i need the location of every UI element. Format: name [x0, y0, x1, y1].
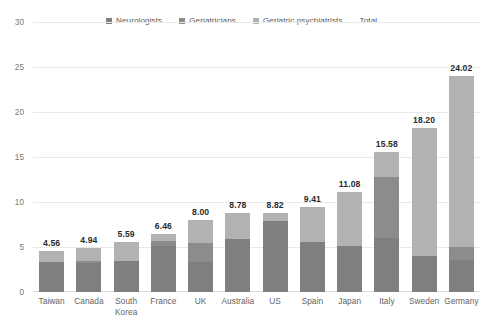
y-axis-tick-label: 20	[0, 107, 24, 117]
bar-total-label: 6.46	[155, 221, 172, 231]
stacked-bar[interactable]: 8.78	[225, 213, 250, 292]
bar-segment-geriatric-psychiatrists[interactable]	[39, 251, 64, 262]
bar-segment-geriatric-psychiatrists[interactable]	[151, 234, 176, 241]
y-axis-tick-label: 30	[0, 17, 24, 27]
x-axis-category-label: UK	[182, 296, 219, 317]
y-axis-tick-label: 0	[0, 287, 24, 297]
bar-total-label: 24.02	[450, 63, 472, 73]
stacked-bar[interactable]: 4.56	[39, 251, 64, 292]
bar-segment-neurologists[interactable]	[412, 256, 437, 292]
bar-segment-geriatric-psychiatrists[interactable]	[76, 248, 101, 261]
bar-segment-neurologists[interactable]	[337, 246, 362, 292]
bar-segment-neurologists[interactable]	[374, 238, 399, 292]
bar-segment-neurologists[interactable]	[300, 242, 325, 292]
bar-total-label: 18.20	[413, 115, 435, 125]
x-axis-category-label: Taiwan	[33, 296, 70, 317]
x-axis-category-label: France	[145, 296, 182, 317]
bar-total-label: 9.41	[304, 194, 321, 204]
bar-segment-neurologists[interactable]	[76, 263, 101, 292]
bar-segment-neurologists[interactable]	[39, 262, 64, 292]
bar-segment-geriatric-psychiatrists[interactable]	[225, 213, 250, 239]
bar-total-label: 15.58	[376, 139, 398, 149]
y-axis-labels: 051015202530	[0, 22, 27, 292]
x-axis-category-label: US	[257, 296, 294, 317]
x-axis-category-label: Spain	[294, 296, 331, 317]
x-axis-category-label: Germany	[443, 296, 480, 317]
bar-slot: 15.58	[368, 22, 405, 292]
bar-total-label: 8.82	[267, 200, 284, 210]
bar-segment-geriatric-psychiatrists[interactable]	[114, 242, 139, 262]
bar-segment-neurologists[interactable]	[225, 239, 250, 292]
x-axis-category-label: Australia	[219, 296, 256, 317]
stacked-bar[interactable]: 4.94	[76, 248, 101, 292]
bar-slot: 6.46	[145, 22, 182, 292]
x-axis-category-label: Japan	[331, 296, 368, 317]
stacked-bar[interactable]: 11.08	[337, 192, 362, 292]
x-axis-category-label: Italy	[368, 296, 405, 317]
bar-slot: 24.02	[443, 22, 480, 292]
y-axis-tick-label: 5	[0, 242, 24, 252]
stacked-bar[interactable]: 9.41	[300, 207, 325, 292]
bar-segment-geriatric-psychiatrists[interactable]	[337, 192, 362, 245]
bar-slot: 8.82	[257, 22, 294, 292]
stacked-bar[interactable]: 8.82	[263, 213, 288, 292]
bar-segment-geriatricians[interactable]	[374, 177, 399, 238]
bar-slot: 5.59	[108, 22, 145, 292]
bar-segment-neurologists[interactable]	[449, 260, 474, 292]
x-axis-category-label: Sweden	[406, 296, 443, 317]
stacked-bar[interactable]: 5.59	[114, 242, 139, 292]
stacked-bar[interactable]: 6.46	[151, 234, 176, 292]
x-axis-category-label: Canada	[70, 296, 107, 317]
bar-total-label: 11.08	[339, 179, 361, 189]
bar-segment-geriatricians[interactable]	[449, 247, 474, 261]
y-axis-tick-label: 10	[0, 197, 24, 207]
stacked-bar[interactable]: 18.20	[412, 128, 437, 292]
bar-segment-neurologists[interactable]	[114, 261, 139, 292]
bar-segment-geriatric-psychiatrists[interactable]	[412, 128, 437, 255]
bar-series-group: 4.564.945.596.468.008.788.829.4111.0815.…	[33, 22, 480, 292]
bar-slot: 4.94	[70, 22, 107, 292]
bar-total-label: 8.78	[229, 200, 246, 210]
bar-segment-neurologists[interactable]	[188, 262, 213, 292]
bar-segment-geriatric-psychiatrists[interactable]	[374, 152, 399, 177]
bar-total-label: 8.00	[192, 207, 209, 217]
stacked-bar[interactable]: 8.00	[188, 220, 213, 292]
bar-total-label: 5.59	[118, 229, 135, 239]
plot-area: 4.564.945.596.468.008.788.829.4111.0815.…	[33, 22, 480, 292]
bar-segment-geriatricians[interactable]	[188, 243, 213, 261]
bar-slot: 4.56	[33, 22, 70, 292]
bar-segment-geriatric-psychiatrists[interactable]	[263, 213, 288, 221]
bar-segment-neurologists[interactable]	[151, 246, 176, 292]
y-axis-tick-label: 15	[0, 152, 24, 162]
bar-segment-geriatric-psychiatrists[interactable]	[300, 207, 325, 242]
bar-slot: 18.20	[406, 22, 443, 292]
bar-slot: 8.78	[219, 22, 256, 292]
bar-slot: 9.41	[294, 22, 331, 292]
bar-segment-neurologists[interactable]	[263, 221, 288, 292]
x-axis-category-label: South Korea	[108, 296, 145, 317]
bar-segment-geriatric-psychiatrists[interactable]	[188, 220, 213, 243]
bar-slot: 11.08	[331, 22, 368, 292]
stacked-bar[interactable]: 15.58	[374, 152, 399, 292]
x-axis-labels: TaiwanCanadaSouth KoreaFranceUKAustralia…	[33, 296, 480, 317]
bar-slot: 8.00	[182, 22, 219, 292]
y-axis-tick-label: 25	[0, 62, 24, 72]
stacked-bar[interactable]: 24.02	[449, 76, 474, 292]
chart-container: NeurologistsGeriatriciansGeriatric psych…	[0, 0, 486, 332]
bar-total-label: 4.56	[43, 238, 60, 248]
bar-segment-geriatric-psychiatrists[interactable]	[449, 76, 474, 247]
bar-total-label: 4.94	[80, 235, 97, 245]
